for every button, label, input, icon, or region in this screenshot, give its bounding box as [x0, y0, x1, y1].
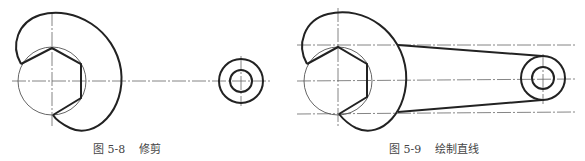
figure-5-9-drawing — [297, 8, 575, 131]
upper-tangent-line — [398, 45, 542, 56]
figure-number: 图 5-8 — [93, 143, 125, 156]
wrench-head-arc — [302, 12, 406, 130]
figure-title: 修剪 — [139, 143, 161, 156]
drawing-canvas — [0, 0, 585, 161]
figure-5-8-caption: 图 5-8修剪 — [93, 140, 161, 156]
hexagon-trimmed — [21, 48, 81, 115]
lower-construction-line — [297, 112, 575, 114]
figure-number: 图 5-9 — [389, 143, 421, 156]
figure-title: 绘制直线 — [435, 143, 479, 156]
wrench-head-arc — [16, 13, 121, 131]
figure-5-8-drawing — [12, 12, 270, 131]
lower-tangent-line — [398, 100, 542, 112]
figure-5-9-caption: 图 5-9绘制直线 — [389, 140, 479, 156]
